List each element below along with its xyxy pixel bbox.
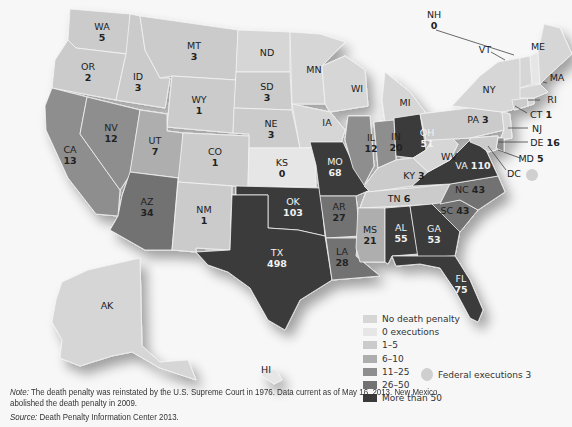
svg-text:DE 16: DE 16 bbox=[530, 137, 560, 148]
state-AK bbox=[52, 258, 196, 380]
svg-text:NJ: NJ bbox=[532, 123, 542, 134]
svg-text:ME: ME bbox=[531, 41, 545, 52]
svg-text:MO68: MO68 bbox=[327, 156, 343, 178]
svg-text:RI: RI bbox=[547, 94, 556, 105]
source-text: Death Penalty Information Center 2013. bbox=[37, 412, 179, 422]
svg-text:VA 110: VA 110 bbox=[455, 160, 491, 171]
svg-text:PA 3: PA 3 bbox=[467, 114, 488, 125]
legend-swatch bbox=[363, 341, 377, 349]
dc-marker bbox=[526, 169, 538, 181]
source: Source: Death Penalty Information Center… bbox=[10, 412, 452, 423]
svg-text:GA53: GA53 bbox=[427, 223, 441, 245]
note: Note: The death penalty was reinstated b… bbox=[10, 387, 452, 409]
svg-text:WV: WV bbox=[441, 151, 457, 162]
federal-executions: Federal executions 3 bbox=[421, 368, 531, 381]
svg-text:KY 3: KY 3 bbox=[403, 170, 424, 181]
svg-text:NY: NY bbox=[483, 84, 496, 95]
svg-text:FL75: FL75 bbox=[454, 273, 467, 295]
svg-text:NH0: NH0 bbox=[427, 9, 441, 31]
svg-text:MI: MI bbox=[400, 97, 411, 108]
us-executions-map: WA5 OR2 ID3 MT3 ND SD3 WY1 NE3 MN WI MI … bbox=[0, 0, 572, 427]
legend-label: 6–10 bbox=[382, 354, 404, 364]
federal-executions-label: Federal executions 3 bbox=[438, 370, 531, 380]
legend-item-6-10: 6–10 bbox=[363, 352, 460, 365]
legend-swatch bbox=[363, 315, 377, 323]
svg-text:NC 43: NC 43 bbox=[455, 184, 485, 195]
svg-text:WI: WI bbox=[351, 83, 363, 94]
svg-text:AK: AK bbox=[101, 300, 114, 311]
svg-text:NV12: NV12 bbox=[104, 122, 118, 144]
legend-label: 11–25 bbox=[382, 367, 409, 377]
svg-text:IN20: IN20 bbox=[389, 131, 403, 153]
svg-text:AZ34: AZ34 bbox=[140, 196, 154, 218]
svg-text:MS21: MS21 bbox=[363, 224, 377, 246]
legend-swatch bbox=[363, 328, 377, 336]
svg-text:IA: IA bbox=[322, 117, 332, 128]
svg-text:AL55: AL55 bbox=[394, 222, 407, 244]
svg-text:HI: HI bbox=[261, 364, 271, 375]
legend-swatch bbox=[363, 368, 377, 376]
source-label: Source: bbox=[10, 412, 37, 422]
legend-item-1-5: 1–5 bbox=[363, 339, 460, 352]
svg-text:OH51: OH51 bbox=[420, 127, 435, 149]
legend-swatch bbox=[363, 355, 377, 363]
note-label: Note: bbox=[10, 387, 29, 397]
legend-label: 1–5 bbox=[382, 340, 398, 350]
svg-text:SC 43: SC 43 bbox=[441, 205, 470, 216]
svg-text:CA13: CA13 bbox=[63, 144, 77, 166]
state-RI bbox=[528, 98, 534, 106]
svg-text:MA: MA bbox=[550, 72, 565, 83]
note-text: The death penalty was reinstated by the … bbox=[10, 387, 437, 408]
legend-item-0-executions: 0 executions bbox=[363, 325, 460, 338]
svg-text:MN: MN bbox=[306, 64, 321, 75]
svg-text:DC: DC bbox=[507, 168, 521, 179]
svg-text:AR27: AR27 bbox=[332, 201, 346, 223]
svg-text:TN 6: TN 6 bbox=[387, 193, 411, 204]
svg-text:ND: ND bbox=[260, 47, 274, 58]
federal-dot-icon bbox=[421, 368, 433, 381]
svg-text:MD 5: MD 5 bbox=[518, 153, 543, 164]
footnotes: Note: The death penalty was reinstated b… bbox=[10, 387, 452, 423]
legend-label: No death penalty bbox=[382, 314, 460, 324]
legend-item-no-death-penalty: No death penalty bbox=[363, 312, 460, 325]
state-CT bbox=[512, 98, 528, 110]
svg-text:CT 1: CT 1 bbox=[530, 109, 552, 120]
svg-text:LA28: LA28 bbox=[335, 246, 349, 268]
svg-text:VT: VT bbox=[479, 44, 491, 55]
legend-label: 0 executions bbox=[382, 327, 439, 337]
